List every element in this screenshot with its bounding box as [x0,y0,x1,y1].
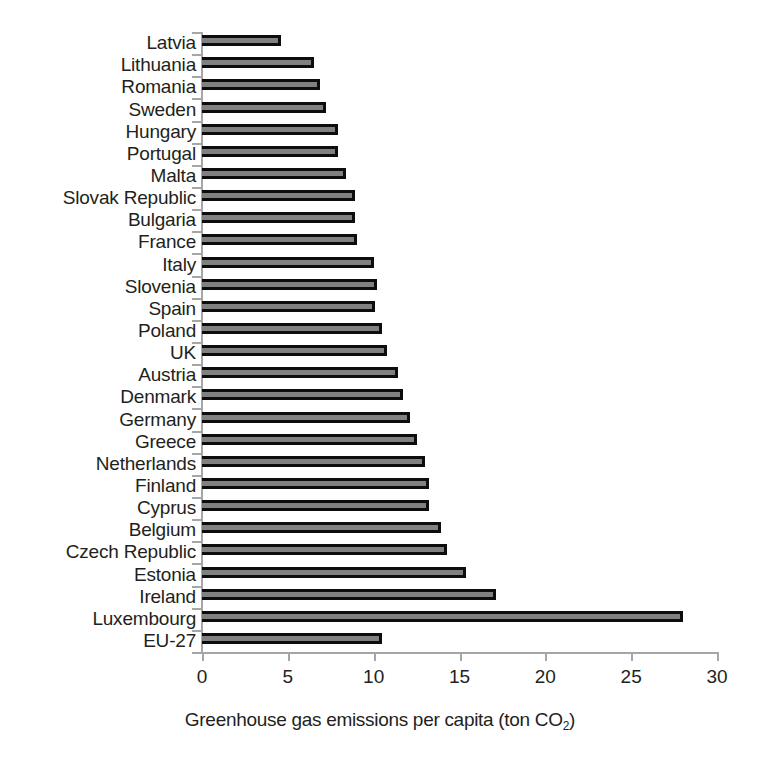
bar-row [202,345,717,356]
bar [202,633,382,644]
bar [202,279,377,290]
bar [202,544,447,555]
bar [202,345,387,356]
x-axis-tick-label: 10 [344,666,404,688]
bar-row [202,633,717,644]
bar-row [202,257,717,268]
x-axis-tick [631,652,633,661]
y-axis-category-label: Romania [1,77,196,96]
bar [202,522,441,533]
x-axis-tick-label: 25 [601,666,661,688]
bar-row [202,102,717,113]
y-axis-category-label: Hungary [1,122,196,141]
bar-row [202,500,717,511]
y-axis-category-label: Latvia [1,33,196,52]
plot-area [202,32,717,652]
bar [202,168,346,179]
bar [202,190,355,201]
y-axis-category-label: Spain [1,299,196,318]
bar-row [202,323,717,334]
bar-chart: LatviaLithuaniaRomaniaSwedenHungaryPortu… [0,0,760,767]
y-axis-category-label: Luxembourg [1,609,196,628]
bar-row [202,234,717,245]
x-axis-tick-label: 30 [687,666,747,688]
bar [202,257,374,268]
bar [202,323,382,334]
y-axis-category-label: Sweden [1,100,196,119]
y-axis-category-label: Cyprus [1,498,196,517]
x-axis-title-main: Greenhouse gas emissions per capita (ton… [185,709,563,730]
y-axis-category-label: Austria [1,365,196,384]
y-axis-category-label: Netherlands [1,454,196,473]
x-axis-tick [288,652,290,661]
y-axis-category-label: Bulgaria [1,210,196,229]
x-axis-tick [545,652,547,661]
x-axis-title: Greenhouse gas emissions per capita (ton… [0,708,760,734]
y-axis-category-label: Italy [1,255,196,274]
bar [202,434,417,445]
y-axis-labels: LatviaLithuaniaRomaniaSwedenHungaryPortu… [0,32,196,652]
bar-row [202,389,717,400]
bar [202,611,683,622]
y-axis-category-label: Ireland [1,587,196,606]
y-axis-category-label: Czech Republic [1,542,196,561]
y-axis-category-label: Poland [1,321,196,340]
bar [202,35,281,46]
y-axis-category-label: Portugal [1,144,196,163]
y-axis-category-label: Finland [1,476,196,495]
bar [202,57,314,68]
y-axis-category-label: Lithuania [1,55,196,74]
bar-row [202,301,717,312]
bar-row [202,522,717,533]
y-axis-category-label: Slovak Republic [1,188,196,207]
bar-row [202,57,717,68]
bar-row [202,434,717,445]
bar [202,478,429,489]
bar-row [202,478,717,489]
bar [202,146,338,157]
y-axis-category-label: Denmark [1,387,196,406]
x-axis-tick-label: 15 [430,666,490,688]
x-axis-tick-label: 5 [258,666,318,688]
bar [202,500,429,511]
bar-row [202,544,717,555]
y-axis-category-label: Malta [1,166,196,185]
bar [202,102,326,113]
x-axis-tick-label: 20 [515,666,575,688]
y-axis-category-label: Greece [1,432,196,451]
y-axis-category-label: France [1,232,196,251]
bar-row [202,567,717,578]
y-axis-category-label: Slovenia [1,277,196,296]
bar [202,367,398,378]
bar-row [202,611,717,622]
bar [202,412,410,423]
bar-row [202,79,717,90]
y-axis-category-label: UK [1,343,196,362]
y-axis-category-label: Germany [1,410,196,429]
bar-row [202,190,717,201]
bar [202,124,338,135]
bar [202,234,357,245]
x-axis-tick [374,652,376,661]
bar-row [202,589,717,600]
x-axis-tick [717,652,719,661]
bar [202,567,466,578]
bar-row [202,124,717,135]
bar [202,589,496,600]
bar-row [202,412,717,423]
x-axis-title-subscript: 2 [563,719,569,733]
bar [202,212,355,223]
y-axis-category-label: EU-27 [1,631,196,650]
bar [202,456,425,467]
bar-row [202,279,717,290]
y-axis-category-label: Estonia [1,565,196,584]
bar [202,301,375,312]
bar-row [202,367,717,378]
bar-row [202,212,717,223]
bar [202,389,403,400]
y-axis-category-label: Belgium [1,520,196,539]
x-axis-tick [202,652,204,661]
x-axis-tick [460,652,462,661]
x-axis-title-tail: ) [569,709,575,730]
bar-row [202,168,717,179]
